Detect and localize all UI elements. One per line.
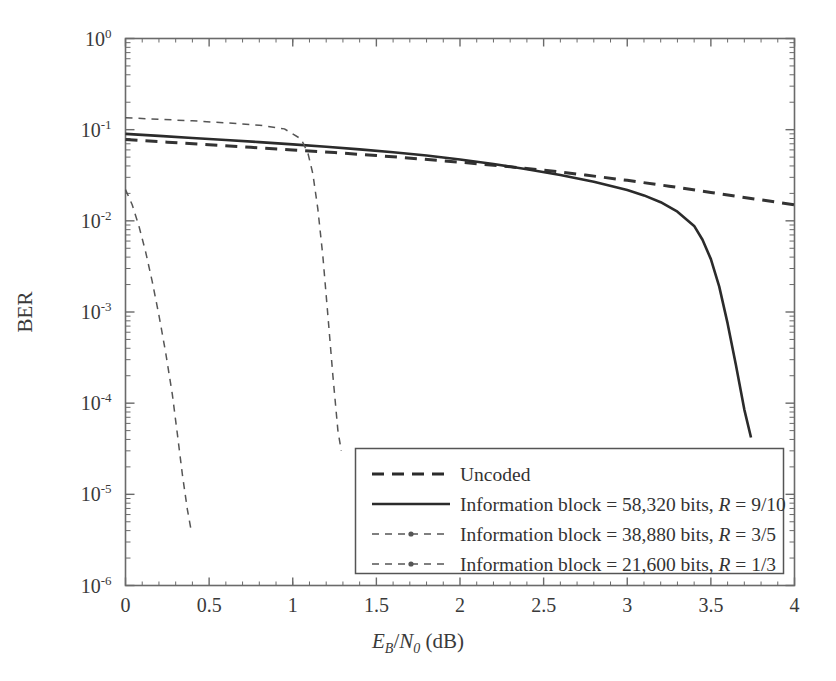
legend-label: Information block = 21,600 bits, R = 1/3 (460, 554, 776, 575)
x-title-n: N (398, 629, 414, 653)
legend-label-prefix: Uncoded (460, 464, 531, 485)
x-tick-label: 4 (790, 594, 800, 616)
legend-label-suffix: = 9/10 (730, 494, 785, 515)
y-axis-title-text: BER (13, 292, 37, 333)
ber-vs-ebn0-chart: 00.511.522.533.54 10010-110-210-310-410-… (0, 0, 836, 681)
x-title-n-subscript: 0 (413, 641, 420, 656)
x-tick-label: 2.5 (531, 594, 556, 616)
legend-label-prefix: Information block = 38,880 bits, (460, 524, 719, 545)
y-tick-mantissa: 10 (81, 301, 101, 323)
x-title-unit-text: (dB) (426, 629, 465, 653)
legend-label-rate-symbol: R (718, 494, 731, 515)
legend-label-rate-symbol: R (718, 524, 731, 545)
y-tick-mantissa: 10 (81, 119, 101, 141)
chart-page: 00.511.522.533.54 10010-110-210-310-410-… (0, 0, 836, 681)
legend-marker-dot (408, 561, 413, 566)
legend-label-suffix: = 3/5 (730, 524, 776, 545)
y-tick-mantissa: 10 (81, 392, 101, 414)
y-tick-exponent: -1 (101, 117, 112, 132)
y-tick-exponent: 0 (105, 26, 112, 41)
legend-marker-dot (408, 531, 413, 536)
x-tick-label: 0.5 (197, 594, 222, 616)
x-tick-label: 1.5 (364, 594, 389, 616)
x-title-e: E (371, 629, 385, 653)
legend-label-rate-symbol: R (718, 554, 731, 575)
y-tick-mantissa: 10 (85, 28, 105, 50)
legend-label: Information block = 58,320 bits, R = 9/1… (460, 494, 786, 515)
x-tick-label: 2 (455, 594, 465, 616)
y-tick-exponent: -4 (101, 390, 112, 405)
y-tick-mantissa: 10 (81, 210, 101, 232)
y-axis-title: BER (13, 292, 37, 333)
y-tick-mantissa: 10 (81, 575, 101, 597)
x-tick-label: 1 (288, 594, 298, 616)
y-tick-exponent: -5 (101, 481, 112, 496)
legend-label: Uncoded (460, 464, 531, 485)
legend-label-suffix: = 1/3 (730, 554, 776, 575)
x-tick-label: 0 (121, 594, 131, 616)
x-tick-label: 3.5 (698, 594, 723, 616)
y-tick-exponent: -2 (101, 208, 112, 223)
legend-label-prefix: Information block = 21,600 bits, (460, 554, 719, 575)
legend: UncodedInformation block = 58,320 bits, … (356, 449, 786, 576)
y-tick-exponent: -3 (101, 299, 112, 314)
y-tick-exponent: -6 (101, 573, 112, 588)
legend-label-prefix: Information block = 58,320 bits, (460, 494, 719, 515)
y-tick-mantissa: 10 (81, 483, 101, 505)
legend-label: Information block = 38,880 bits, R = 3/5 (460, 524, 776, 545)
x-tick-label: 3 (622, 594, 632, 616)
